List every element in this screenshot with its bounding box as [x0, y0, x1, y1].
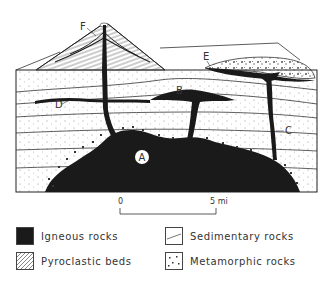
metamorphic-swatch-icon [165, 252, 183, 270]
label-c: C [285, 125, 292, 136]
label-b: B [176, 85, 183, 96]
label-f: F [80, 21, 86, 32]
scale-bar [120, 208, 216, 214]
legend-label: Metamorphic rocks [190, 256, 296, 267]
legend-label: Sedimentary rocks [190, 231, 294, 242]
label-a: A [139, 152, 146, 163]
legend-item-sedimentary: Sedimentary rocks [165, 227, 294, 245]
label-e: E [203, 51, 209, 62]
legend-label: Igneous rocks [41, 231, 118, 242]
sedimentary-swatch-icon [165, 227, 183, 245]
scale-start-label: 0 [118, 197, 123, 206]
igneous-swatch-icon [16, 227, 34, 245]
legend-label: Pyroclastic beds [41, 256, 132, 267]
legend-item-metamorphic: Metamorphic rocks [165, 252, 296, 270]
label-d: D [55, 99, 63, 110]
legend-item-pyroclastic: Pyroclastic beds [16, 252, 132, 270]
volcano-cone [36, 23, 165, 70]
scale-end-label: 5 mi [210, 197, 228, 206]
pyroclastic-swatch-icon [16, 252, 34, 270]
legend-item-igneous: Igneous rocks [16, 227, 118, 245]
